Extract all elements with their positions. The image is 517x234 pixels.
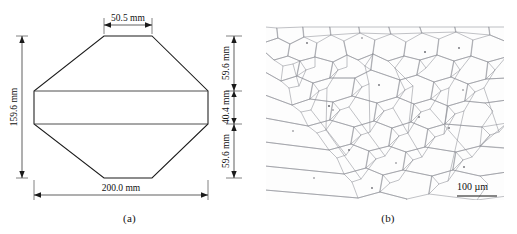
top-dim-arrow-left: [104, 22, 111, 27]
micrograph-svg: 100 µm: [259, 0, 517, 234]
bottom-dim-arrow-left: [34, 192, 41, 197]
octagon-drawing-svg: 50.5 mm 159.6 mm 200.0 mm: [0, 0, 259, 234]
right-dim-arrow-upper-bottom: [231, 84, 236, 91]
figure-root: 50.5 mm 159.6 mm 200.0 mm: [0, 0, 517, 234]
right-dim-arrow-middle-bottom: [231, 118, 236, 124]
left-dim-arrow-top: [19, 36, 24, 43]
dim-top-width-label: 50.5 mm: [111, 13, 145, 23]
left-dim-arrow-bottom: [19, 171, 24, 178]
dim-right-lower-label: 59.6 mm: [221, 134, 231, 168]
panel-b-micrograph: 100 µm (b): [259, 0, 517, 234]
scale-bar-label: 100 µm: [457, 181, 488, 192]
dim-right-middle-label: 40.4 mm: [221, 90, 231, 124]
bottom-dim-arrow-right: [201, 192, 208, 197]
panel-a-caption: (a): [0, 212, 259, 224]
octagon-outline: [34, 36, 208, 178]
dim-overall-width-label: 200.0 mm: [102, 183, 141, 193]
dim-right-upper-label: 59.6 mm: [221, 46, 231, 80]
top-dim-arrow-right: [145, 22, 152, 27]
panel-b-caption: (b): [259, 212, 517, 224]
right-dim-arrow-lower-bottom: [231, 171, 236, 178]
dim-overall-height-label: 159.6 mm: [9, 87, 19, 126]
right-dim-arrow-upper-top: [231, 36, 236, 43]
right-dim-arrow-lower-top: [231, 124, 236, 131]
panel-a-drawing: 50.5 mm 159.6 mm 200.0 mm: [0, 0, 259, 234]
right-dim-arrow-middle-top: [231, 91, 236, 97]
